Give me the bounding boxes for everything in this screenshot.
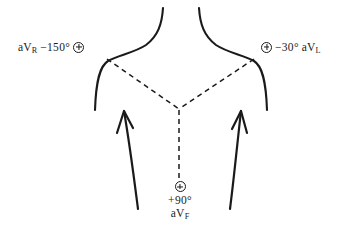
- ecg-axis-diagram: aVR −150° −30° aVL +90° aVF: [0, 0, 350, 237]
- plus-circle-icon-avf: [175, 181, 186, 192]
- label-avl-angle: −30°: [275, 41, 299, 53]
- label-avf-angle: +90°: [152, 194, 208, 206]
- right-neck-shoulder-path: [199, 8, 267, 110]
- right-arm-arrow-shaft: [230, 111, 241, 209]
- label-avl-lead-subscript: L: [316, 46, 321, 55]
- label-avf-lead-subscript: F: [185, 212, 190, 221]
- body-outline-group: [95, 8, 267, 210]
- avr-axis-line: [107, 59, 179, 109]
- label-avr-row: aVR −150°: [18, 41, 84, 54]
- label-avl-lead-prefix: aV: [302, 41, 316, 53]
- label-avf-marker-wrap: [152, 181, 208, 192]
- label-avr-lead: aVR: [18, 41, 37, 54]
- label-avr-angle: −150°: [40, 41, 70, 53]
- avl-axis-line: [179, 59, 254, 109]
- label-avl-lead: aVL: [302, 41, 321, 54]
- plus-circle-icon-avl: [261, 42, 272, 53]
- label-avl: −30° aVL: [261, 41, 321, 54]
- left-neck-shoulder-path: [95, 8, 163, 110]
- label-avf: +90° aVF: [152, 181, 208, 220]
- label-avf-lead: aVF: [152, 207, 208, 220]
- label-avr: aVR −150°: [18, 41, 84, 54]
- label-avf-lead-prefix: aV: [171, 207, 185, 219]
- label-avl-row: −30° aVL: [261, 41, 321, 54]
- label-avr-lead-prefix: aV: [18, 41, 32, 53]
- plus-circle-icon-avr: [73, 42, 84, 53]
- label-avr-lead-subscript: R: [32, 46, 37, 55]
